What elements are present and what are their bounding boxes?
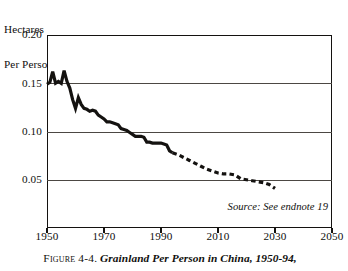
figure-caption-title: Grainland Per Person in China, 1950-94, — [100, 252, 297, 264]
figure-caption-label: Figure 4-4. — [43, 252, 97, 264]
series-historical-line — [47, 71, 172, 153]
x-tick-label-2010: 2010 — [198, 231, 238, 242]
series-projected-line — [172, 153, 275, 189]
x-tick-label-1950: 1950 — [27, 231, 67, 242]
x-tick-label-1990: 1990 — [141, 231, 181, 242]
y-tick-label-0.15: 0.15 — [0, 78, 42, 89]
y-axis-unit-line-2: Per Person — [4, 59, 53, 71]
y-tick-label-0.10: 0.10 — [0, 126, 42, 137]
x-tick-label-1970: 1970 — [84, 231, 124, 242]
source-note: Source: See endnote 19 — [228, 201, 328, 212]
x-tick-label-2050: 2050 — [312, 231, 348, 242]
x-tick-label-2030: 2030 — [255, 231, 295, 242]
figure-caption: Figure 4-4. Grainland Per Person in Chin… — [0, 252, 340, 265]
y-tick-label-0.20: 0.20 — [0, 29, 42, 40]
y-tick-label-0.05: 0.05 — [0, 174, 42, 185]
chart-series-layer — [47, 35, 332, 228]
